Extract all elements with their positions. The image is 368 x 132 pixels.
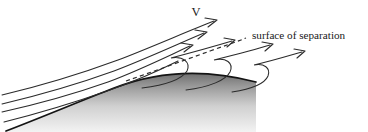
separation-surface-label: surface of separation — [252, 29, 346, 41]
flow-separation-figure: V surface of separation — [0, 0, 368, 132]
diagram-canvas: V surface of separation — [0, 0, 368, 132]
velocity-label: V — [191, 5, 200, 19]
